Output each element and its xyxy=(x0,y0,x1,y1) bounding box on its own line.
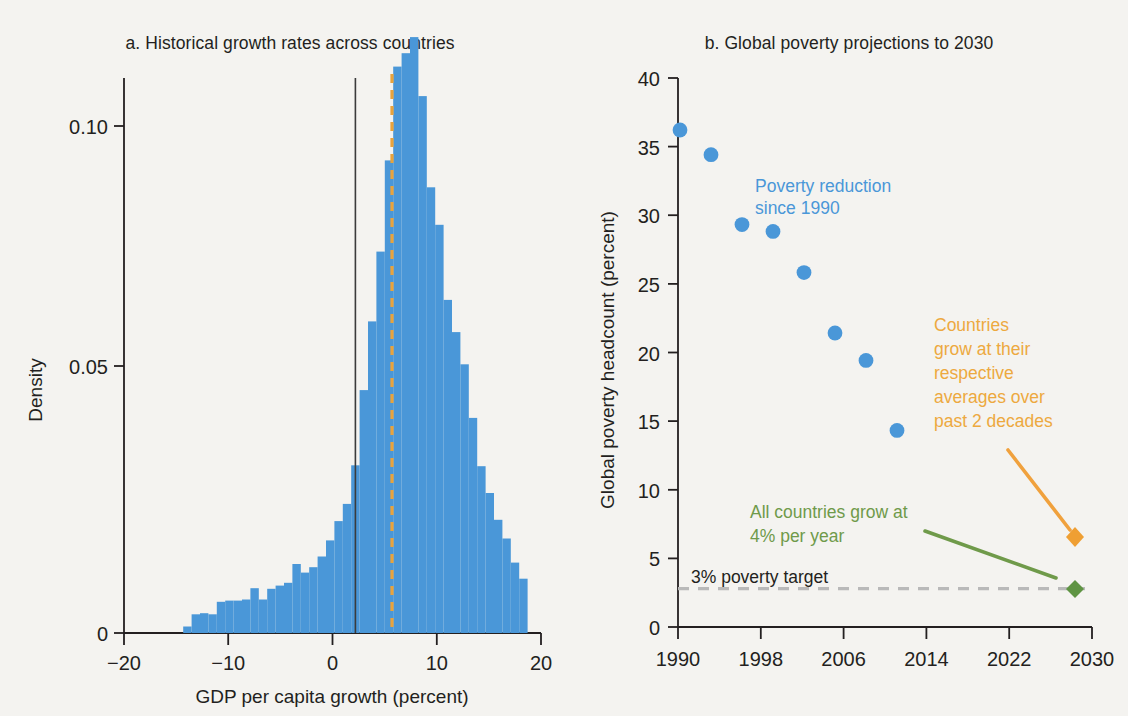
histogram-bar xyxy=(284,583,292,633)
histogram-bar xyxy=(200,613,208,633)
histogram-bar xyxy=(192,614,200,633)
histogram-bar xyxy=(511,563,519,633)
y-tick-label-005: 0.05 xyxy=(69,356,108,378)
x-tick-label-0: 0 xyxy=(327,652,338,674)
histogram-bar xyxy=(242,600,250,634)
histogram-bar xyxy=(494,520,502,633)
histogram-bar xyxy=(360,390,368,633)
histogram-bar xyxy=(276,586,284,633)
panel-b-x-ticks: 1990 1998 2006 2014 2022 2030 xyxy=(656,627,1115,670)
annotation-country-averages-line4: averages over xyxy=(934,387,1045,407)
histogram-bar xyxy=(217,602,225,633)
histogram-bar xyxy=(519,579,527,633)
panel-b-y-axis-title: Global poverty headcount (percent) xyxy=(597,211,618,509)
panel-b-plot: 0 5 10 15 20 25 30 35 40 Global poverty … xyxy=(590,0,1128,716)
panel-a-y-ticks: 0 0.05 0.10 xyxy=(69,116,124,645)
y-tick-label-010: 0.10 xyxy=(69,116,108,138)
histogram-bar xyxy=(225,601,233,633)
y-tick-label-25: 25 xyxy=(638,274,660,296)
histogram-bar xyxy=(326,540,334,633)
x-tick-label-m20: −20 xyxy=(107,652,141,674)
x-tick-label-20: 20 xyxy=(530,652,552,674)
histogram-bar xyxy=(469,418,477,633)
histogram-bar xyxy=(318,557,326,634)
green-endpoint-diamond xyxy=(1066,580,1084,598)
scatter-point xyxy=(890,423,905,438)
green-projection-line xyxy=(925,531,1056,578)
histogram-bar xyxy=(452,332,460,633)
figure-canvas: a. Historical growth rates across countr… xyxy=(0,0,1128,716)
x-tick-label-m10: −10 xyxy=(211,652,245,674)
histogram-bar xyxy=(460,364,468,633)
histogram-bar xyxy=(435,225,443,633)
y-tick-label-10: 10 xyxy=(638,480,660,502)
panel-a-x-ticks: −20 −10 0 10 20 xyxy=(107,633,552,674)
y-tick-label-15: 15 xyxy=(638,411,660,433)
histogram-bar xyxy=(301,573,309,633)
panel-b-y-ticks: 0 5 10 15 20 25 30 35 40 xyxy=(638,68,678,639)
annotation-country-averages-line5: past 2 decades xyxy=(934,411,1053,431)
y-tick-label-0: 0 xyxy=(649,617,660,639)
scatter-point xyxy=(704,147,719,162)
histogram-bar xyxy=(343,504,351,633)
annotation-4pct-growth-line2: 4% per year xyxy=(750,526,845,546)
histogram-bar xyxy=(267,589,275,633)
histogram-bar xyxy=(292,564,300,633)
x-tick-label-2014: 2014 xyxy=(904,648,949,670)
poverty-scatter-series xyxy=(673,123,905,438)
y-tick-label-5: 5 xyxy=(649,548,660,570)
scatter-point xyxy=(735,217,750,232)
histogram-bar xyxy=(250,588,258,633)
x-tick-label-1998: 1998 xyxy=(739,648,784,670)
y-tick-label-40: 40 xyxy=(638,68,660,90)
histogram-bar xyxy=(334,521,342,633)
x-tick-label-1990: 1990 xyxy=(656,648,701,670)
y-tick-label-0: 0 xyxy=(97,623,108,645)
scatter-point xyxy=(828,326,843,341)
histogram-bar xyxy=(410,37,418,633)
panel-a-x-axis-title: GDP per capita growth (percent) xyxy=(195,686,468,707)
annotation-country-averages-line1: Countries xyxy=(934,315,1009,335)
histogram-bar xyxy=(427,187,435,633)
annotation-poverty-target: 3% poverty target xyxy=(691,567,828,587)
y-tick-label-20: 20 xyxy=(638,343,660,365)
x-tick-label-2030: 2030 xyxy=(1070,648,1115,670)
histogram-bar xyxy=(309,567,317,633)
histogram-bar xyxy=(208,614,216,633)
annotation-poverty-reduction-line2: since 1990 xyxy=(755,198,840,218)
panel-a-y-axis-title: Density xyxy=(25,358,46,422)
scatter-point xyxy=(766,224,781,239)
x-tick-label-2006: 2006 xyxy=(821,648,866,670)
panel-a-histogram: a. Historical growth rates across countr… xyxy=(0,0,590,716)
histogram-bar xyxy=(393,67,401,633)
scatter-point xyxy=(673,123,688,138)
histogram-bar xyxy=(502,539,510,634)
panel-a-plot: 0 0.05 0.10 Density xyxy=(0,0,590,716)
annotation-country-averages-line3: respective xyxy=(934,363,1014,383)
x-tick-label-10: 10 xyxy=(426,652,448,674)
histogram-bar xyxy=(368,321,376,633)
y-tick-label-35: 35 xyxy=(638,137,660,159)
histogram-bar xyxy=(402,53,410,633)
scatter-point xyxy=(859,353,874,368)
histogram-bar xyxy=(234,601,242,633)
histogram-bar xyxy=(418,96,426,633)
histogram-bar xyxy=(486,493,494,633)
histogram-bar xyxy=(376,252,384,633)
orange-pointer-line xyxy=(1008,450,1070,530)
histogram-bar xyxy=(183,627,191,634)
x-tick-label-2022: 2022 xyxy=(987,648,1031,670)
panel-b-projections: b. Global poverty projections to 2030 0 … xyxy=(590,0,1128,716)
annotation-poverty-reduction-line1: Poverty reduction xyxy=(755,176,891,196)
annotation-country-averages-line2: grow at their xyxy=(934,339,1030,359)
annotation-4pct-growth-line1: All countries grow at xyxy=(750,502,908,522)
histogram-bar xyxy=(444,300,452,633)
histogram-bar xyxy=(259,600,267,634)
scatter-point xyxy=(797,265,812,280)
y-tick-label-30: 30 xyxy=(638,205,660,227)
histogram-bar xyxy=(477,466,485,633)
